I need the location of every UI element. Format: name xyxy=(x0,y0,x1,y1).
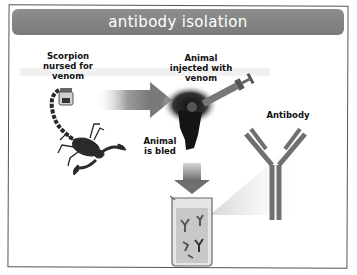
scorpion-label: Scorpion nursed for venom xyxy=(38,51,98,81)
animal-injected-label: Animal injected with venom xyxy=(165,53,237,83)
arrow-down-icon xyxy=(174,163,210,194)
antibody-label: Antibody xyxy=(258,110,318,120)
arrow-right-icon xyxy=(95,82,172,118)
animal-bled-label: Animal is bled xyxy=(138,136,182,156)
beaker-icon xyxy=(170,196,212,266)
venom-jar-icon xyxy=(59,88,73,105)
